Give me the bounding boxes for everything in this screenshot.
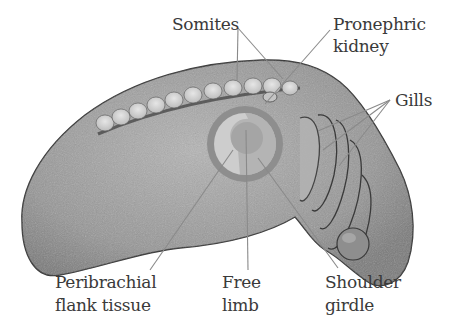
label-free-line2: limb bbox=[222, 295, 259, 315]
free-limb-center bbox=[231, 122, 263, 154]
label-free-line1: Free bbox=[222, 272, 261, 292]
embryo-diagram: Somites Pronephric kidney Gills Peribrac… bbox=[0, 0, 451, 333]
label-shoulder-line1: Shoulder bbox=[325, 272, 401, 292]
label-peribrachial-line1: Peribrachial bbox=[55, 272, 156, 292]
label-peribrachial-line2: flank tissue bbox=[55, 295, 151, 315]
eye-bulge bbox=[337, 228, 369, 260]
label-gills: Gills bbox=[395, 90, 432, 110]
label-pronephric-line2: kidney bbox=[333, 36, 388, 56]
label-shoulder-line2: girdle bbox=[325, 295, 374, 315]
label-somites: Somites bbox=[172, 14, 239, 34]
label-pronephric-line1: Pronephric bbox=[333, 14, 426, 34]
